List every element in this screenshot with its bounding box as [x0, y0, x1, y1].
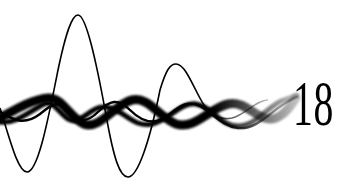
- number-label: 18: [293, 72, 334, 136]
- waveform-graphic: 18: [0, 0, 347, 193]
